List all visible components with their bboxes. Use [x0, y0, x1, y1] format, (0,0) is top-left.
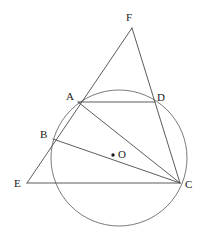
- geometry-figure: ABCDEFO: [0, 0, 201, 238]
- point-label-e: E: [14, 178, 21, 189]
- chord-A-C: [78, 102, 180, 183]
- chord-B-C: [53, 139, 180, 183]
- point-label-b: B: [40, 129, 47, 140]
- point-label-a: A: [66, 91, 74, 102]
- segment-group: [27, 28, 180, 183]
- point-label-f: F: [126, 12, 132, 23]
- geometry-canvas: [0, 0, 201, 238]
- point-label-o: O: [118, 149, 126, 160]
- point-label-c: C: [185, 179, 192, 190]
- point-label-d: D: [157, 92, 165, 103]
- segment-F-C: [132, 28, 180, 183]
- segment-E-F: [27, 28, 132, 183]
- point-dot-o: [111, 153, 114, 156]
- point-dot-group: [111, 153, 114, 156]
